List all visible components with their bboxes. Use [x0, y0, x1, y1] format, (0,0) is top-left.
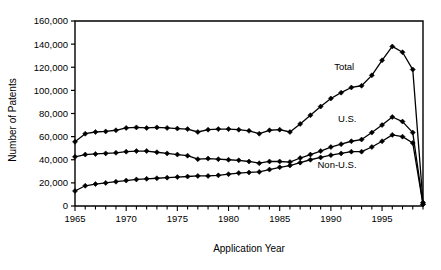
data-series-group: [73, 44, 426, 207]
y-tick-label: 20,000: [39, 177, 68, 188]
series-label-non-u-s: Non-U.S.: [317, 159, 356, 170]
plot-frame: [75, 21, 423, 206]
x-axis-tick-labels: 1965197019751980198519901995: [64, 213, 392, 224]
x-axis-ticks: [75, 206, 423, 211]
x-tick-label: 1990: [320, 213, 341, 224]
y-tick-label: 100,000: [34, 85, 68, 96]
series-label-total: Total: [334, 61, 354, 72]
y-axis-tick-labels: 020,00040,00060,00080,000100,000120,0001…: [34, 15, 68, 211]
y-tick-label: 120,000: [34, 62, 68, 73]
y-tick-label: 0: [63, 200, 68, 211]
chart-figure: 020,00040,00060,00080,000100,000120,0001…: [0, 0, 441, 270]
y-tick-label: 140,000: [34, 39, 68, 50]
x-tick-label: 1985: [269, 213, 290, 224]
y-tick-label: 160,000: [34, 15, 68, 26]
y-tick-label: 60,000: [39, 131, 68, 142]
patents-line-chart: 020,00040,00060,00080,000100,000120,0001…: [0, 0, 441, 270]
x-tick-label: 1965: [64, 213, 85, 224]
x-tick-label: 1975: [167, 213, 188, 224]
y-tick-label: 80,000: [39, 108, 68, 119]
y-tick-label: 40,000: [39, 154, 68, 165]
x-tick-label: 1980: [218, 213, 239, 224]
series-non-u-s: [73, 132, 426, 206]
x-axis-title: Application Year: [213, 243, 285, 254]
x-tick-label: 1995: [371, 213, 392, 224]
y-axis-title: Number of Patents: [7, 78, 18, 161]
x-tick-label: 1970: [116, 213, 137, 224]
series-label-u-s: U.S.: [338, 113, 356, 124]
